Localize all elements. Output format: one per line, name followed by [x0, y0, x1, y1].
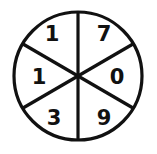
- spinner-wheel-figure: 1 7 0 9 3 1: [0, 0, 157, 154]
- sector-label-top-right: 7: [97, 22, 112, 46]
- sector-label-left: 1: [32, 65, 47, 89]
- spinner-wheel-svg: 1 7 0 9 3 1: [0, 0, 157, 154]
- sector-label-top-left: 1: [45, 22, 60, 46]
- sector-label-bottom-right: 9: [97, 106, 112, 130]
- sector-label-bottom-left: 3: [47, 106, 62, 130]
- sector-label-right: 0: [110, 65, 125, 89]
